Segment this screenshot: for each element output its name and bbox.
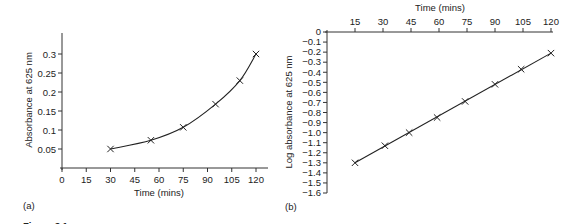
x-tick-label: 30 [105, 174, 116, 185]
y-tick-label: 0.2 [43, 87, 56, 98]
x-marker-icon [180, 124, 186, 130]
y-tick-label: 0.15 [38, 106, 57, 117]
y-tick-label: 0.05 [38, 144, 57, 155]
chart-a-data-markers [107, 51, 259, 152]
x-marker-icon [237, 77, 243, 83]
x-tick-label: 120 [248, 174, 264, 185]
chart-a: 0153045607590105120 0.050.10.150.20.250.… [23, 33, 268, 211]
chart-b-y-ticks: 0−0.1−0.2−0.3−0.4−0.5−0.6−0.7−0.8−0.9−1.… [302, 26, 327, 198]
x-tick-label: 105 [515, 16, 531, 27]
x-tick-label: 90 [490, 16, 501, 27]
y-tick-label: −1.6 [302, 187, 321, 198]
figure-caption: Figure 3.1 [23, 220, 69, 224]
chart-a-x-ticks: 0153045607590105120 [59, 168, 264, 185]
y-tick-label: 0.3 [43, 49, 56, 60]
chart-a-fit-curve [111, 54, 257, 149]
x-marker-icon [212, 101, 218, 107]
x-tick-label: 30 [378, 16, 389, 27]
y-tick-label: 0.25 [38, 68, 57, 79]
x-marker-icon [462, 98, 468, 104]
y-tick-label: 0.1 [43, 125, 56, 136]
chart-a-y-ticks: 0.050.10.150.20.250.3 [38, 49, 63, 155]
x-tick-label: 45 [406, 16, 417, 27]
x-tick-label: 15 [81, 174, 92, 185]
x-marker-icon [492, 81, 498, 87]
x-tick-label: 75 [178, 174, 189, 185]
x-marker-icon [406, 129, 412, 135]
x-tick-label: 120 [543, 16, 559, 27]
chart-a-x-axis-title: Time (mins) [134, 187, 184, 198]
x-marker-icon [548, 50, 554, 56]
chart-b-panel-label: (b) [285, 201, 297, 212]
chart-b-x-axis-title: Time (mins) [415, 2, 465, 13]
x-marker-icon [253, 51, 259, 57]
x-marker-icon [148, 137, 154, 143]
x-tick-label: 60 [434, 16, 445, 27]
x-marker-icon [382, 143, 388, 149]
x-marker-icon [518, 66, 524, 72]
x-tick-label: 0 [59, 174, 64, 185]
chart-b-x-ticks: 153045607590105120 [350, 16, 559, 32]
x-tick-label: 45 [129, 174, 140, 185]
chart-b-y-axis-title: Log absorbance at 625 nm [283, 55, 294, 168]
chart-b: 153045607590105120 0−0.1−0.2−0.3−0.4−0.5… [283, 2, 559, 212]
x-tick-label: 15 [350, 16, 361, 27]
x-tick-label: 60 [154, 174, 165, 185]
figure: 0153045607590105120 0.050.10.150.20.250.… [0, 0, 567, 224]
chart-a-y-axis-title: Absorbance at 625 nm [23, 52, 34, 148]
chart-a-panel-label: (a) [23, 200, 35, 211]
x-tick-label: 105 [224, 174, 240, 185]
x-tick-label: 75 [462, 16, 473, 27]
x-tick-label: 90 [202, 174, 213, 185]
x-marker-icon [352, 160, 358, 166]
